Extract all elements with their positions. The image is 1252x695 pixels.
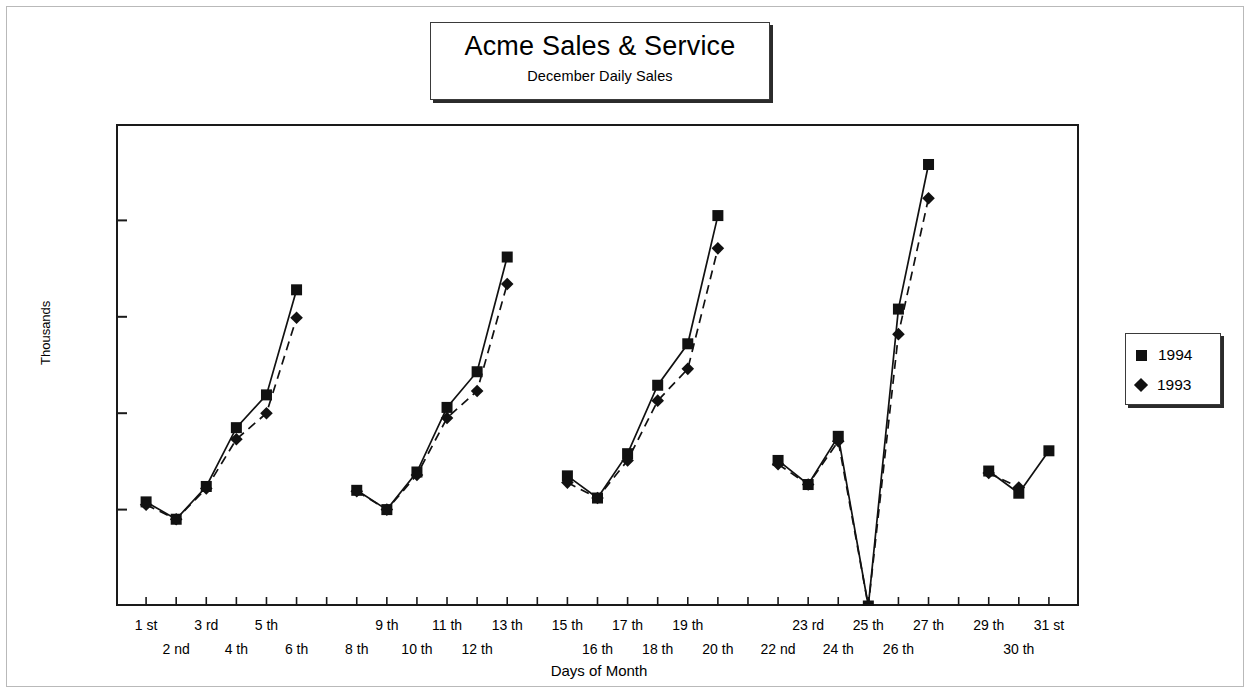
plot-area [116,124,1079,606]
x-tick-label: 5 th [231,617,301,633]
x-axis-title: Days of Month [0,662,1252,679]
legend-label: 1993 [1157,374,1191,396]
chart-canvas [116,124,1079,606]
chart-legend: 1994 1993 [1125,333,1221,405]
legend-label: 1994 [1158,344,1192,366]
x-tick-label: 31 st [1014,617,1084,633]
x-tick-label: 12 th [442,641,512,657]
chart-title-box: Acme Sales & Service December Daily Sale… [430,22,770,100]
diamond-marker-icon [1134,378,1148,392]
legend-item-1994[interactable]: 1994 [1136,344,1192,366]
page-title: Acme Sales & Service [431,26,769,66]
y-axis-title: Thousands [38,301,53,365]
chart-subtitle: December Daily Sales [431,66,769,86]
x-axis-title-text: Days of Month [551,662,648,679]
x-tick-label: 30 th [984,641,1054,657]
square-marker-icon [1136,350,1147,361]
legend-item-1993[interactable]: 1993 [1136,374,1191,396]
x-tick-label: 19 th [653,617,723,633]
x-tick-label: 26 th [863,641,933,657]
